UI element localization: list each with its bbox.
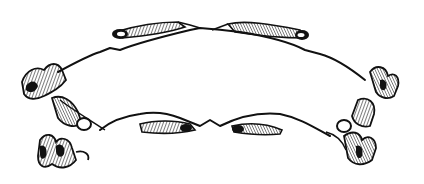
- banner-bottom-edge: [100, 113, 330, 136]
- bottom-center-curls: [140, 121, 282, 135]
- banner-scroll-graphic: [0, 0, 424, 184]
- banner-top-edge: [58, 28, 365, 80]
- banner-illustration: [0, 0, 424, 184]
- left-ribbon-folds: [22, 64, 105, 167]
- right-ribbon-folds: [326, 67, 398, 164]
